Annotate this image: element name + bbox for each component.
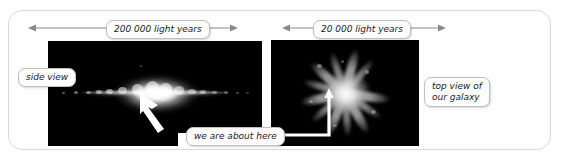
callout-we-are-about-here: we are about here [186, 127, 285, 146]
callout-side-view: side view [18, 68, 76, 87]
galaxy-scale-figure: 200 000 light years 20 000 light years s… [0, 0, 561, 165]
galaxy-core-bright [335, 84, 357, 104]
spiral-galaxy [271, 40, 419, 146]
dimension-label-20000-light-years: 20 000 light years [313, 20, 411, 39]
dimension-label-200000-light-years: 200 000 light years [106, 20, 210, 39]
callout-top-view-of-our-galaxy: top view of our galaxy [424, 77, 490, 107]
top-view-panel [271, 40, 419, 146]
